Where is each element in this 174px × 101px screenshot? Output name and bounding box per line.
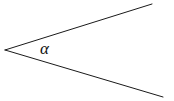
upper-ray (5, 4, 152, 50)
lower-ray (5, 50, 163, 97)
angle-label-alpha: α (40, 40, 49, 57)
angle-diagram-svg (0, 0, 174, 101)
angle-figure: α (0, 0, 174, 101)
